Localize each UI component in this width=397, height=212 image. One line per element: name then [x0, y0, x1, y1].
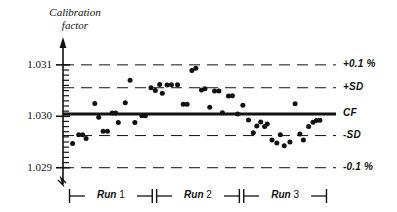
run-label-run-2: Run 2	[158, 189, 238, 200]
plot-area	[0, 0, 397, 212]
reference-line-label-minus-sd: -SD	[343, 129, 361, 140]
y-axis-tick-label: 1.029	[0, 161, 52, 173]
calibration-control-chart: Calibration factor +0.1 %+SDCF-SD-0.1 %1…	[0, 0, 397, 212]
y-axis-tick-label: 1.030	[0, 109, 52, 121]
reference-line-label-plus-sd: +SD	[343, 81, 363, 92]
y-axis-tick-label: 1.031	[0, 58, 52, 70]
run-brackets-layer	[0, 0, 397, 212]
reference-line-label-plus-tolerance: +0.1 %	[343, 58, 376, 69]
reference-line-label-cf: CF	[343, 107, 357, 118]
reference-line-label-minus-tolerance: -0.1 %	[343, 161, 373, 172]
run-label-run-3: Run 3	[245, 189, 325, 200]
run-label-run-1: Run 1	[71, 189, 151, 200]
